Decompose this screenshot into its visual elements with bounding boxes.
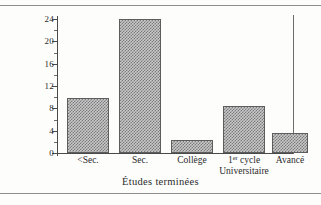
x-axis-title: Études terminées bbox=[0, 176, 321, 187]
y-tick-label-0: 0 bbox=[49, 149, 54, 158]
y-tick-label-8: 8 bbox=[49, 104, 54, 113]
bar-college bbox=[171, 140, 213, 153]
x-label-1er-cycle: 1er cycle Universitaire bbox=[219, 155, 269, 177]
figure-bar-chart: Fréquence 24 20 16 12 8 4 bbox=[0, 0, 321, 205]
y-tick-label-24: 24 bbox=[45, 15, 54, 24]
y-tick-label-16: 16 bbox=[45, 59, 54, 68]
x-axis-line bbox=[57, 153, 294, 154]
bar-series bbox=[57, 19, 293, 153]
bottom-rule bbox=[0, 193, 321, 194]
y-tick-label-20: 20 bbox=[45, 37, 54, 46]
bar-avance bbox=[272, 133, 308, 153]
x-label-sec: Sec. bbox=[132, 155, 148, 166]
bar-sec bbox=[119, 19, 161, 153]
y-tick-label-4: 4 bbox=[49, 126, 54, 135]
bar-1er-cycle bbox=[223, 106, 265, 154]
x-label-lt-sec: <Sec. bbox=[77, 155, 98, 166]
x-label-college: Collège bbox=[177, 155, 207, 166]
plot-area: 24 20 16 12 8 4 0 bbox=[57, 19, 292, 153]
top-rule bbox=[0, 5, 321, 6]
y-tick-label-12: 12 bbox=[45, 82, 54, 91]
x-label-avance: Avancé bbox=[276, 155, 304, 166]
bar-lt-sec bbox=[67, 98, 109, 153]
